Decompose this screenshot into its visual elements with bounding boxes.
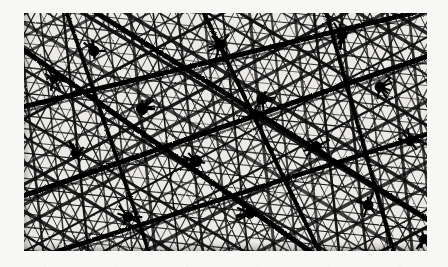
lattice-diagram <box>24 13 427 251</box>
page-canvas: Dense triangulated space-frame truss pho… <box>0 0 448 267</box>
space-frame-photograph <box>24 13 427 251</box>
